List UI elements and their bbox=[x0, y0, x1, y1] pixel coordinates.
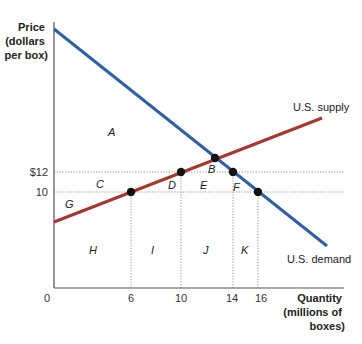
y-axis-title: Price (dollars per box) bbox=[5, 21, 49, 61]
marked-points bbox=[127, 154, 262, 196]
region-label-f: F bbox=[233, 181, 241, 193]
point-demand-12 bbox=[229, 168, 237, 176]
y-tick-12: $12 bbox=[30, 166, 48, 178]
region-label-i: I bbox=[151, 244, 154, 256]
region-label-d: D bbox=[168, 179, 176, 191]
x-tick-10: 10 bbox=[175, 292, 187, 304]
y-tick-10: 10 bbox=[36, 186, 48, 198]
region-label-k: K bbox=[241, 244, 249, 256]
demand-curve bbox=[54, 29, 327, 246]
demand-label: U.S. demand bbox=[287, 253, 351, 265]
region-label-a: A bbox=[107, 126, 115, 138]
x-tick-14: 14 bbox=[226, 292, 238, 304]
region-label-b: B bbox=[208, 163, 215, 175]
region-label-c: C bbox=[96, 178, 104, 190]
point-supply-10 bbox=[127, 188, 135, 196]
region-label-e: E bbox=[200, 179, 208, 191]
region-label-g: G bbox=[65, 198, 74, 210]
region-label-j: J bbox=[202, 244, 209, 256]
point-demand-10 bbox=[254, 188, 262, 196]
region-label-h: H bbox=[89, 244, 97, 256]
x-axis-title: Quantity (millions of boxes) bbox=[283, 292, 345, 332]
x-tick-16: 16 bbox=[255, 292, 267, 304]
x-tick-6: 6 bbox=[128, 292, 134, 304]
supply-label: U.S. supply bbox=[293, 101, 350, 113]
point-equilibrium bbox=[211, 154, 219, 162]
point-supply-12 bbox=[177, 168, 185, 176]
x-tick-0: 0 bbox=[44, 292, 50, 304]
supply-demand-chart: Price (dollars per box) $12 10 0 6 10 14… bbox=[0, 0, 362, 344]
